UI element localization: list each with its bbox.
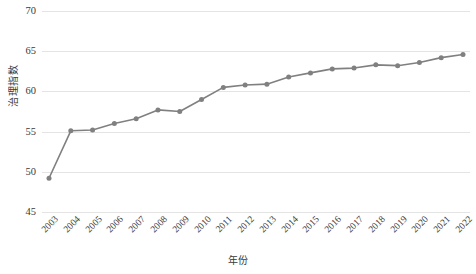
x-axis-tick-label: 2013	[253, 214, 278, 239]
x-axis-tick-label: 2022	[449, 214, 474, 239]
x-axis-tick-label: 2012	[231, 214, 256, 239]
data-point-marker	[461, 52, 466, 57]
x-axis-tick-label: 2008	[144, 214, 169, 239]
x-axis-tick-label: 2014	[274, 214, 299, 239]
data-point-marker	[417, 60, 422, 65]
x-axis-tick-label: 2019	[383, 214, 408, 239]
data-point-marker	[330, 66, 335, 71]
x-axis-tick-labels: 2003200420052006200720082009201020112012…	[42, 214, 470, 254]
x-axis-tick-label: 2010	[187, 214, 212, 239]
data-point-marker	[155, 107, 160, 112]
data-point-marker	[352, 66, 357, 71]
y-axis-tick-labels: 455055606570	[0, 0, 40, 230]
data-point-marker	[134, 116, 139, 121]
x-axis-tick-label: 2006	[100, 214, 125, 239]
data-point-marker	[439, 55, 444, 60]
data-point-marker	[112, 121, 117, 126]
series-治理指数	[42, 11, 470, 212]
x-axis-tick-label: 2011	[209, 214, 234, 239]
x-axis-tick-label: 2018	[361, 214, 386, 239]
x-axis-tick-label: 2007	[122, 214, 147, 239]
x-axis-tick-label: 2020	[405, 214, 430, 239]
x-axis-tick-label: 2015	[296, 214, 321, 239]
x-axis-tick-label: 2016	[318, 214, 343, 239]
y-axis-tick-label: 50	[26, 167, 37, 177]
x-axis-title: 年份	[0, 252, 476, 267]
y-axis-tick-label: 55	[26, 127, 37, 137]
x-axis-tick-label: 2017	[340, 214, 365, 239]
y-axis-tick-label: 45	[26, 207, 37, 217]
x-axis-tick-label: 2005	[78, 214, 103, 239]
data-point-marker	[199, 97, 204, 102]
data-point-marker	[286, 74, 291, 79]
y-axis-tick-label: 65	[26, 46, 37, 56]
data-point-marker	[308, 70, 313, 75]
data-point-marker	[47, 176, 52, 181]
data-point-marker	[373, 62, 378, 67]
data-point-marker	[68, 128, 73, 133]
x-axis-tick-label: 2004	[56, 214, 81, 239]
data-point-marker	[177, 109, 182, 114]
data-point-marker	[90, 127, 95, 132]
y-axis-tick-label: 60	[26, 86, 37, 96]
x-axis-tick-label: 2009	[165, 214, 190, 239]
data-point-marker	[221, 85, 226, 90]
gridline	[42, 212, 470, 213]
series-line	[49, 54, 463, 178]
data-point-marker	[395, 63, 400, 68]
y-axis-tick-label: 70	[26, 6, 37, 16]
data-point-marker	[243, 82, 248, 87]
plot-area	[42, 11, 470, 212]
line-chart: 治理指数 455055606570 2003200420052006200720…	[0, 0, 476, 274]
data-point-marker	[264, 82, 269, 87]
x-axis-tick-label: 2021	[427, 214, 452, 239]
